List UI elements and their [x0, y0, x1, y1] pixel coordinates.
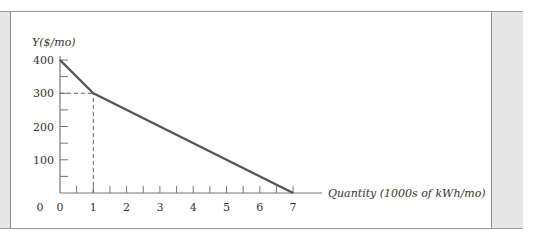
- x-tick-label: 5: [223, 201, 230, 214]
- x-tick-label: 1: [90, 201, 97, 214]
- x-tick-label: 3: [156, 201, 163, 214]
- y-axis-title: Y($/mo): [32, 36, 76, 49]
- x-tick-label: 6: [256, 201, 263, 214]
- x-tick-label: 0: [57, 201, 64, 214]
- x-tick-label: 4: [190, 201, 197, 214]
- origin-label: 0: [37, 201, 44, 214]
- y-tick-label: 400: [33, 54, 54, 67]
- y-tick-label: 300: [33, 87, 54, 100]
- x-tick-label: 7: [290, 201, 297, 214]
- y-tick-label: 100: [33, 154, 54, 167]
- y-tick-label: 200: [33, 121, 54, 134]
- x-tick-label: 2: [123, 201, 130, 214]
- chart-canvas: 01234567100200300400Y($/mo)Quantity (100…: [0, 0, 533, 236]
- x-axis-title: Quantity (1000s of kWh/mo): [328, 187, 486, 200]
- budget-line: [60, 60, 293, 193]
